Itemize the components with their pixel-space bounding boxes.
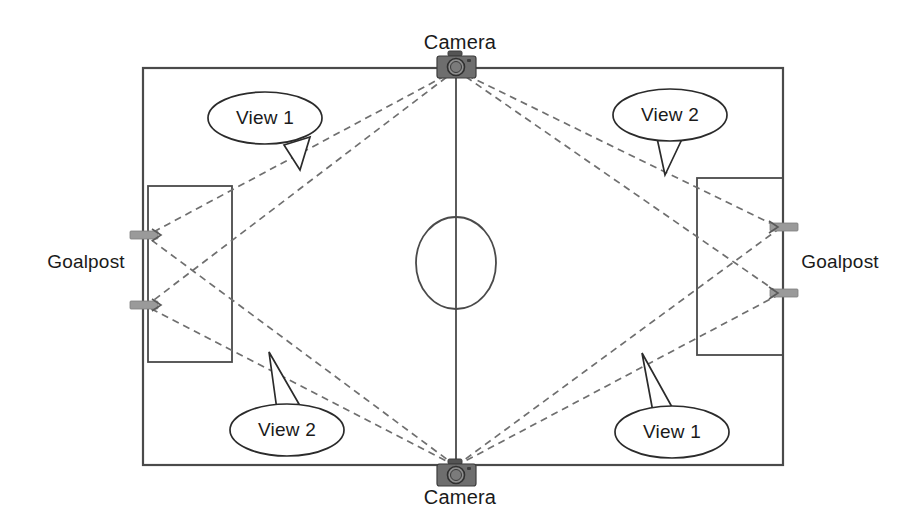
callout-top-left [208,92,322,170]
goal-box-right [697,178,783,355]
callout-top-left-label: View 1 [236,107,294,129]
goalpost-marker-right-lower [769,287,798,299]
camera-top-label: Camera [424,31,496,54]
diagram-canvas: Camera Camera Goalpost Goalpost View 1 V… [0,0,920,524]
goalpost-right-label: Goalpost [801,251,879,273]
goalpost-marker-left-upper [130,229,161,241]
callout-top-right [613,89,727,175]
goalpost-left-label: Goalpost [47,251,125,273]
field-diagram-svg [0,0,920,524]
goalpost-marker-right-upper [769,221,798,233]
camera-icon-bottom[interactable] [437,459,476,486]
camera-bottom-label: Camera [424,486,496,509]
sight-line-top-cam-right-upper [456,70,780,228]
callout-bottom-right-label: View 1 [643,421,701,443]
callout-top-right-label: View 2 [641,104,699,126]
camera-icon-top[interactable] [437,51,476,78]
callout-bottom-left-label: View 2 [258,419,316,441]
goalpost-marker-left-lower [130,299,161,311]
